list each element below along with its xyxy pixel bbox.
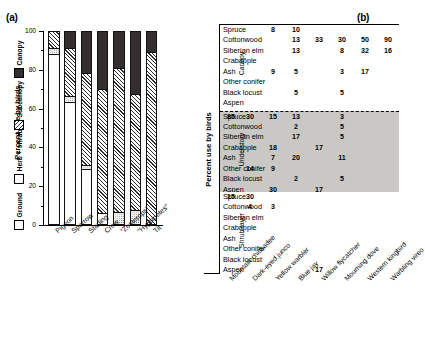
matrix-cell: 10 — [288, 25, 304, 35]
y-minor-tick-10 — [41, 206, 44, 207]
y-tick-label-100: 100 — [16, 27, 36, 34]
table-row: Black locust25 — [220, 174, 399, 184]
tree-species-label: Siberian elm — [223, 132, 264, 142]
bar-sparrow — [64, 31, 76, 225]
matrix-cell: 17 — [357, 67, 373, 77]
table-row: Other conifer149 — [220, 164, 399, 174]
matrix-cell: 5 — [334, 122, 350, 132]
matrix-cell: 11 — [334, 153, 350, 163]
legend-label: Canopy — [16, 41, 23, 66]
y-tick-60 — [39, 109, 44, 110]
matrix-cell: 8 — [265, 25, 281, 35]
matrix-cell: 13 — [288, 46, 304, 56]
y-minor-tick-70 — [41, 89, 44, 90]
bar-segment-sub — [98, 90, 108, 215]
tree-species-label: Ash — [223, 153, 236, 163]
panel-a: (a) Percent use by birds GroundHerb + sh… — [0, 0, 175, 340]
matrix-cell: 5 — [334, 88, 350, 98]
matrix-cell: 13 — [288, 112, 304, 122]
tree-species-label: Siberian elm — [223, 46, 264, 56]
table-row: Black locust55 — [220, 88, 399, 98]
matrix-cell: 13 — [288, 35, 304, 45]
bar-segment-sub — [49, 32, 59, 49]
matrix-cell: 17 — [311, 143, 327, 153]
matrix-cell: 2 — [288, 122, 304, 132]
bar-segment-ground — [49, 55, 59, 224]
table-row: Ash95317 — [220, 67, 399, 77]
bar-crow — [97, 31, 109, 225]
matrix-cell: 30 — [242, 192, 258, 202]
table-row: Crabapple — [220, 223, 399, 233]
tree-species-label: Other conifer — [223, 77, 265, 87]
bar-segment-sub — [147, 53, 157, 224]
matrix-cell: 3 — [334, 67, 350, 77]
matrix-cell: 15 — [223, 192, 239, 202]
bar-segment-can — [82, 32, 92, 74]
y-minor-tick-90 — [41, 50, 44, 51]
tree-species-label: Cottonwood — [223, 35, 262, 45]
tree-species-label: Aspen — [223, 98, 244, 108]
table-row: Ash — [220, 234, 399, 244]
matrix-cell: 32 — [357, 46, 373, 56]
legend-label: Herb + shrub — [16, 129, 23, 171]
bar-zosterops — [113, 31, 125, 225]
bar-segment-ground — [65, 103, 75, 224]
bar-segment-sub — [65, 49, 75, 97]
tree-species-label: Cottonwood — [223, 122, 262, 132]
hatched-square-icon — [14, 121, 24, 131]
bar-segment-can — [98, 32, 108, 90]
tree-species-label: Ash — [223, 234, 236, 244]
tree-species-label: Siberian elm — [223, 213, 264, 223]
bar-segment-can — [131, 32, 141, 95]
bar-segment-can — [147, 32, 157, 53]
y-tick-label-40: 40 — [16, 143, 36, 150]
matrix-cell: 7 — [265, 153, 281, 163]
matrix-cell: 16 — [380, 46, 396, 56]
bar-segment-sub — [114, 69, 124, 213]
matrix-cell: 50 — [357, 35, 373, 45]
bar-tit — [146, 31, 158, 225]
table-row: Crabapple1817 — [220, 143, 399, 153]
matrix-cell: 90 — [380, 35, 396, 45]
tree-species-label: Spruce — [223, 25, 246, 35]
tree-species-label: Black locust — [223, 88, 262, 98]
table-row: Spruce1530 — [220, 192, 399, 202]
table-row: Cottonwood43 — [220, 202, 399, 212]
tree-species-label: Crabapple — [223, 56, 257, 66]
matrix-cell: 3 — [334, 112, 350, 122]
tree-species-label: Ash — [223, 67, 236, 77]
y-tick-0 — [39, 225, 44, 226]
matrix-cell: 20 — [288, 153, 304, 163]
bar-segment-sub — [131, 95, 141, 210]
bar-hypsipetes — [130, 31, 142, 225]
matrix-cell: 3 — [265, 202, 281, 212]
matrix-cell: 85 — [223, 112, 239, 122]
bar-pigeon — [48, 31, 60, 225]
matrix-cell: 5 — [334, 174, 350, 184]
legend-label: Ground — [16, 193, 23, 218]
y-tick-80 — [39, 70, 44, 71]
matrix-cell: 5 — [288, 88, 304, 98]
y-tick-40 — [39, 147, 44, 148]
panel-b-tag: (b) — [357, 12, 369, 23]
bar-starling — [81, 31, 93, 225]
table-row: Siberian elm175 — [220, 132, 399, 142]
matrix-cell: 30 — [242, 112, 258, 122]
matrix-cell: 5 — [334, 132, 350, 142]
y-tick-label-20: 20 — [16, 182, 36, 189]
table-row: Crabapple — [220, 56, 399, 66]
matrix-cell: 14 — [242, 164, 258, 174]
bar-segment-can — [65, 32, 75, 49]
tree-species-label: Crabapple — [223, 143, 257, 153]
y-tick-20 — [39, 186, 44, 187]
table-row: Cottonwood1333305090 — [220, 35, 399, 45]
table-row: Aspen — [220, 98, 399, 108]
y-tick-label-0: 0 — [16, 221, 36, 228]
matrix-cell: 33 — [311, 35, 327, 45]
stratum-block-canopy: CanopySpruce810Cottonwood1333305090Siber… — [220, 25, 399, 109]
y-tick-100 — [39, 31, 44, 32]
panel-b: (b) Percent use by birds CanopySpruce810… — [176, 0, 403, 340]
matrix-cell: 8 — [334, 46, 350, 56]
table-row: Siberian elm1383216 — [220, 46, 399, 56]
